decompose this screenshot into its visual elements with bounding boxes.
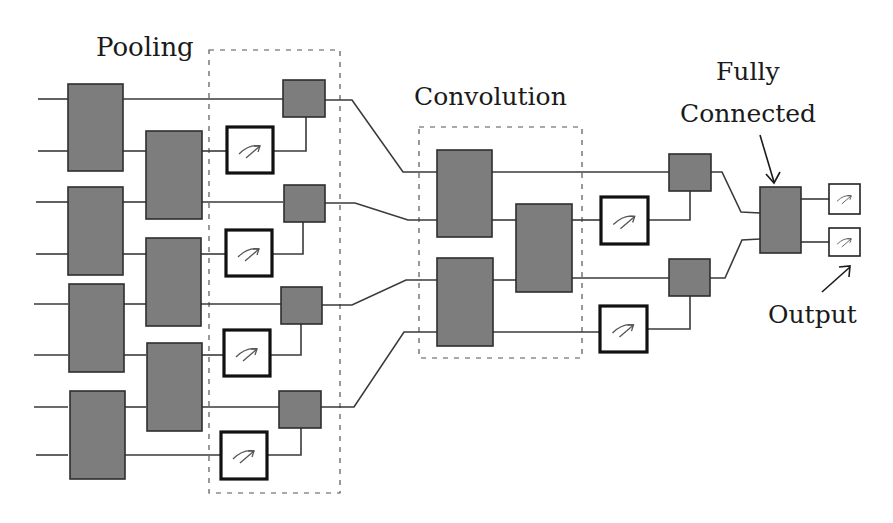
measurement-meter-icon [600,306,647,352]
pointer-arrow-icon [760,135,780,183]
gate-block-icon [437,150,492,237]
pooling-measurements [221,127,273,479]
input-wires [34,99,68,455]
convolution-label: Convolution [414,82,567,111]
fully-connected-gate [760,187,801,253]
gate-block-icon [669,154,711,191]
gate-block-icon [281,287,322,324]
gate-block-icon [68,187,123,275]
gate-block-icon [69,284,124,372]
second-pooling-controlled-gates [669,154,711,296]
measurement-meter-icon [829,228,860,256]
gate-block-icon [283,80,325,117]
measurement-meter-icon [227,127,273,173]
input-gate-column [68,84,125,479]
gate-block-icon [279,391,321,428]
gate-block-icon [669,259,710,296]
pooling-label: Pooling [96,32,194,62]
gate-block-icon [284,185,325,222]
measurement-meter-icon [221,432,267,479]
convolution-gates [437,150,572,346]
measurement-meter-icon [829,184,860,214]
fully-connected-label-line2: Connected [680,99,816,128]
qcnn-circuit-diagram: Pooling Convolution Fully Connected Outp… [0,0,893,523]
second-gate-column [146,131,202,431]
measurement-meter-icon [224,330,270,376]
gate-block-icon [70,391,125,479]
fully-connected-label-line1: Fully [716,57,780,86]
gate-block-icon [516,204,572,292]
gate-block-icon [146,238,201,326]
second-pooling-measurements [600,197,648,352]
gate-block-icon [437,258,493,346]
gate-block-icon [146,131,202,219]
output-measurements [829,184,860,256]
gate-block-icon [68,84,123,171]
output-label: Output [768,300,857,329]
gate-block-icon [147,343,202,431]
measurement-meter-icon [226,230,272,276]
pointer-arrow-icon [822,266,850,292]
measurement-meter-icon [601,197,648,244]
